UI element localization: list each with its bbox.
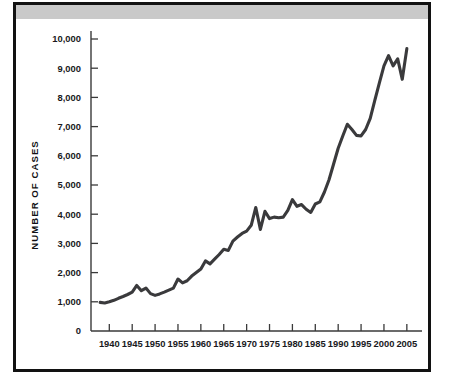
x-tick-label: 1980 — [282, 338, 303, 349]
x-tick-label: 1960 — [190, 338, 211, 349]
y-tick-mark-group — [91, 39, 98, 302]
x-tick-label: 1975 — [259, 338, 280, 349]
x-tick-label-group: 1940194519501955196019651970197519801985… — [99, 338, 417, 349]
x-tick-mark-group — [109, 324, 407, 331]
x-tick-label: 1955 — [168, 338, 189, 349]
x-tick-label: 2000 — [374, 338, 395, 349]
y-tick-label: 6,000 — [58, 150, 81, 161]
x-tick-label: 2005 — [396, 338, 417, 349]
chart-plot-area: 01,0002,0003,0004,0005,0006,0007,0008,00… — [16, 19, 428, 369]
y-tick-label: 5,000 — [58, 179, 81, 190]
x-tick-label: 1945 — [122, 338, 143, 349]
y-tick-label: 7,000 — [58, 121, 81, 132]
figure-page: 01,0002,0003,0004,0005,0006,0007,0008,00… — [0, 0, 450, 390]
y-axis-title: NUMBER OF CASES — [29, 140, 40, 250]
y-tick-label: 3,000 — [58, 238, 81, 249]
y-tick-label-group: 01,0002,0003,0004,0005,0006,0007,0008,00… — [52, 33, 81, 336]
x-tick-label: 1970 — [236, 338, 257, 349]
decorative-top-band — [16, 5, 428, 19]
x-tick-label: 1940 — [99, 338, 120, 349]
y-tick-label: 1,000 — [58, 296, 81, 307]
y-tick-label: 2,000 — [58, 267, 81, 278]
y-tick-label: 10,000 — [52, 33, 81, 44]
x-tick-label: 1995 — [351, 338, 372, 349]
line-chart: 01,0002,0003,0004,0005,0006,0007,0008,00… — [16, 19, 428, 369]
x-tick-label: 1990 — [328, 338, 349, 349]
y-tick-label: 9,000 — [58, 63, 81, 74]
y-tick-label: 0 — [76, 325, 81, 336]
figure-card: 01,0002,0003,0004,0005,0006,0007,0008,00… — [13, 2, 431, 372]
y-tick-label: 4,000 — [58, 209, 81, 220]
x-tick-label: 1950 — [145, 338, 166, 349]
data-series-line — [100, 49, 407, 303]
x-tick-label: 1965 — [213, 338, 234, 349]
y-tick-label: 8,000 — [58, 92, 81, 103]
x-tick-label: 1985 — [305, 338, 326, 349]
